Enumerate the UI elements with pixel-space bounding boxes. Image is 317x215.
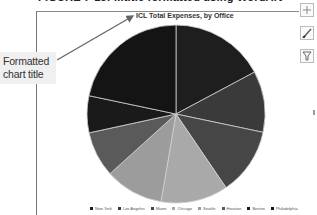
legend-label: Chicago [177,206,192,211]
legend-item[interactable]: Philadelphia [271,206,298,211]
legend-swatch [151,207,154,210]
legend-item[interactable]: New York [90,206,112,211]
legend-label: Philadelphia [276,206,298,211]
chart-filters-button[interactable] [300,49,314,63]
chart-legend[interactable]: New YorkLos AngelesMiamiChicagoSeattleHo… [90,206,298,211]
pie-chart[interactable] [0,0,317,215]
legend-label: Miami [156,206,167,211]
brush-icon [302,28,312,38]
legend-swatch [222,207,225,210]
edge-handle [313,110,315,115]
plus-icon [302,5,312,15]
legend-item[interactable]: Los Angeles [118,206,145,211]
legend-swatch [118,207,121,210]
legend-label: New York [95,206,112,211]
legend-swatch [90,207,93,210]
legend-item[interactable]: Seattle [198,206,215,211]
chart-styles-button[interactable] [300,26,314,40]
legend-label: Houston [227,206,242,211]
legend-item[interactable]: Chicago [172,206,192,211]
legend-label: Boston [252,206,264,211]
callout-line-1: Formatted [3,55,56,68]
legend-swatch [247,207,250,210]
legend-item[interactable]: Houston [222,206,242,211]
legend-item[interactable]: Miami [151,206,167,211]
legend-label: Los Angeles [123,206,145,211]
legend-item[interactable]: Boston [247,206,264,211]
chart-elements-button[interactable] [300,3,314,17]
legend-swatch [172,207,175,210]
legend-label: Seattle [203,206,215,211]
funnel-icon [302,51,312,61]
callout-line-2: chart title [3,68,56,81]
callout-box: Formatted chart title [0,52,56,84]
pie-slices[interactable] [87,25,265,203]
chart-title[interactable]: ICL Total Expenses, by Office [136,12,234,19]
legend-swatch [198,207,201,210]
legend-swatch [271,207,274,210]
